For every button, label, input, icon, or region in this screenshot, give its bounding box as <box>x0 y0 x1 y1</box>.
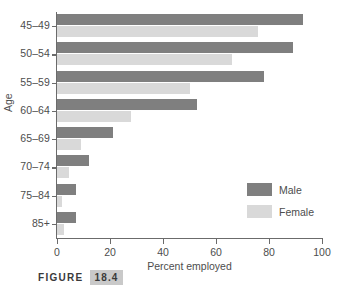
bar-female <box>57 167 69 178</box>
bar-group <box>57 69 322 97</box>
y-tick-label: 70–74 <box>4 160 50 172</box>
bar-male <box>57 212 76 223</box>
x-tick-mark <box>110 239 111 244</box>
legend-swatch-male <box>247 183 272 196</box>
bar-group <box>57 97 322 125</box>
x-tick-mark <box>57 239 58 244</box>
legend-item-female: Female <box>247 203 314 220</box>
y-tick-mark <box>52 54 57 55</box>
bar-male <box>57 14 303 25</box>
bar-group <box>57 125 322 153</box>
y-tick-mark <box>52 224 57 225</box>
y-tick-mark <box>52 111 57 112</box>
figure-container: 45–4950–5455–5960–6465–6970–7475–8485+ 0… <box>0 0 342 292</box>
y-tick-label: 75–84 <box>4 189 50 201</box>
figure-caption-number: 18.4 <box>90 270 124 285</box>
bar-male <box>57 71 264 82</box>
bar-female <box>57 83 190 94</box>
legend-label-male: Male <box>279 184 302 196</box>
bar-male <box>57 42 293 53</box>
y-tick-mark <box>52 167 57 168</box>
x-tick-label: 60 <box>210 246 222 258</box>
bar-group <box>57 153 322 181</box>
x-tick-label: 80 <box>263 246 275 258</box>
figure-caption: FIGURE 18.4 <box>38 270 123 285</box>
legend-swatch-female <box>247 205 272 218</box>
bar-female <box>57 139 81 150</box>
x-tick-label: 0 <box>54 246 60 258</box>
y-tick-label: 45–49 <box>4 19 50 31</box>
bar-female <box>57 26 258 37</box>
x-tick-label: 20 <box>104 246 116 258</box>
x-tick-mark <box>163 239 164 244</box>
bar-female <box>57 196 62 207</box>
y-tick-mark <box>52 83 57 84</box>
chart-legend: MaleFemale <box>247 181 314 225</box>
bar-group <box>57 40 322 68</box>
x-axis-line <box>57 238 323 239</box>
x-tick-mark <box>322 239 323 244</box>
y-axis-title: Age <box>2 93 14 112</box>
legend-item-male: Male <box>247 181 314 198</box>
bar-male <box>57 184 76 195</box>
bar-female <box>57 224 64 235</box>
y-tick-mark <box>52 196 57 197</box>
bar-male <box>57 155 89 166</box>
x-tick-label: 40 <box>157 246 169 258</box>
y-axis-labels: 45–4950–5455–5960–6465–6970–7475–8485+ <box>0 0 50 292</box>
bar-female <box>57 111 131 122</box>
y-tick-label: 55–59 <box>4 76 50 88</box>
y-tick-mark <box>52 26 57 27</box>
legend-label-female: Female <box>279 206 314 218</box>
bar-male <box>57 127 113 138</box>
y-tick-label: 65–69 <box>4 132 50 144</box>
x-tick-mark <box>216 239 217 244</box>
x-tick-label: 100 <box>313 246 331 258</box>
figure-caption-label: FIGURE <box>38 272 84 283</box>
x-tick-mark <box>269 239 270 244</box>
bar-female <box>57 54 232 65</box>
bar-group <box>57 12 322 40</box>
bar-male <box>57 99 197 110</box>
y-tick-label: 85+ <box>4 217 50 229</box>
y-tick-mark <box>52 139 57 140</box>
y-tick-label: 50–54 <box>4 47 50 59</box>
